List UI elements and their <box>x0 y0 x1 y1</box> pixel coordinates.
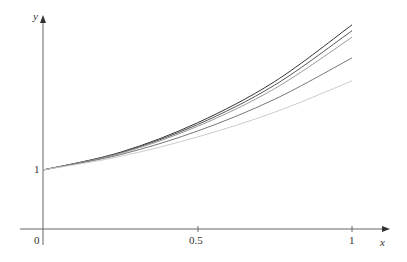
curves <box>43 25 352 170</box>
y-tick-label-one: 1 <box>34 163 40 175</box>
curve-5 <box>43 81 352 170</box>
curve-3 <box>43 37 352 170</box>
chart-canvas <box>0 0 407 262</box>
curve-4 <box>43 58 352 170</box>
origin-label: 0 <box>34 234 40 246</box>
x-tick-label-mid: 0.5 <box>189 234 203 246</box>
curve-1 <box>43 25 352 170</box>
y-axis-label: y <box>33 10 38 22</box>
x-axis-arrow-icon <box>382 226 390 232</box>
x-tick-label-end: 1 <box>349 234 355 246</box>
y-axis-arrow-icon <box>40 15 46 23</box>
x-axis-label: x <box>380 236 385 248</box>
